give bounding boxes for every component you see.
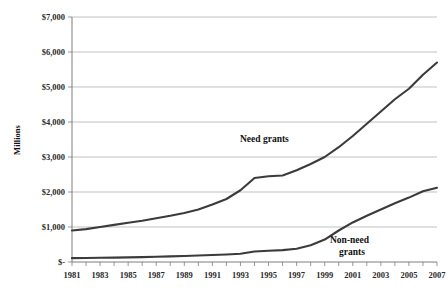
chart-canvas: $-$1,000$2,000$3,000$4,000$5,000$6,000$7…: [0, 0, 448, 294]
x-tick-label: 2003: [372, 270, 389, 280]
series-label-non-need-grants-line1: Non-need: [330, 235, 370, 245]
y-tick-labels: $-$1,000$2,000$3,000$4,000$5,000$6,000$7…: [42, 12, 66, 267]
x-tick-label: 1989: [176, 270, 193, 280]
series-lines: [72, 63, 437, 259]
gridlines: [72, 17, 437, 227]
x-tick-label: 1985: [120, 270, 137, 280]
series-label-non-need-grants-line2: grants: [339, 247, 365, 257]
y-tick-label: $2,000: [42, 187, 65, 197]
x-tick-label: 1997: [288, 270, 306, 280]
y-tick-label: $5,000: [42, 82, 65, 92]
x-tick-labels: 1981198319851987198919911993199519971999…: [64, 270, 447, 280]
y-tick-label: $-: [58, 257, 65, 267]
x-tick-label: 2007: [429, 270, 447, 280]
series-label-need-grants: Need grants: [240, 134, 289, 144]
x-tick-marks: [72, 262, 437, 266]
y-tick-label: $1,000: [42, 222, 65, 232]
x-tick-label: 1995: [260, 270, 277, 280]
x-tick-label: 1983: [92, 270, 109, 280]
x-tick-label: 1987: [148, 270, 166, 280]
series-line-need-grants: [72, 63, 437, 231]
x-tick-label: 1991: [204, 270, 221, 280]
y-axis-title: Millions: [12, 124, 22, 154]
y-tick-label: $3,000: [42, 152, 65, 162]
y-tick-label: $4,000: [42, 117, 65, 127]
y-tick-label: $7,000: [42, 12, 65, 22]
x-tick-label: 1999: [316, 270, 333, 280]
x-tick-label: 2001: [344, 270, 361, 280]
x-tick-label: 1981: [64, 270, 81, 280]
y-tick-marks: [68, 17, 72, 262]
x-tick-label: 1993: [232, 270, 249, 280]
x-tick-label: 2005: [400, 270, 417, 280]
y-tick-label: $6,000: [42, 47, 65, 57]
line-chart: $-$1,000$2,000$3,000$4,000$5,000$6,000$7…: [0, 0, 448, 294]
